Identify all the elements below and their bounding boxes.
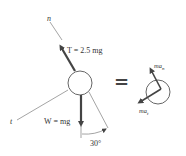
tangential-accel-subscript: t [147, 111, 149, 116]
tangential-accel-label: mat [139, 107, 149, 116]
n-axis-label: n [47, 14, 51, 23]
inclined-reference-line [89, 92, 108, 128]
n-axis-line [50, 22, 62, 40]
normal-accel-label: man [154, 62, 165, 71]
equals-sign: = [114, 71, 129, 92]
free-body-diagram: n t T = 2.5 mg W = mg 30° = man mat [0, 0, 186, 156]
t-axis-label: t [10, 117, 13, 126]
normal-accel-subscript: n [162, 66, 165, 71]
t-axis-line [17, 90, 68, 120]
angle-arc [82, 129, 106, 134]
weight-label: W = mg [44, 117, 70, 126]
tension-label: T = 2.5 mg [67, 46, 102, 55]
body-circle [68, 71, 92, 95]
angle-label: 30° [90, 139, 101, 148]
